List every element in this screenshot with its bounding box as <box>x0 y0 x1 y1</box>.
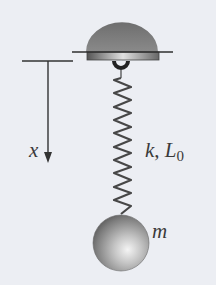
k-symbol: k <box>145 138 154 162</box>
arrowhead-icon <box>44 152 52 163</box>
dome-shape <box>86 22 158 52</box>
hook <box>114 61 128 78</box>
spring <box>114 78 131 214</box>
spring-parameters-label: k, L0 <box>145 140 184 164</box>
L-symbol: L <box>165 138 177 162</box>
ceiling-mount <box>72 22 173 60</box>
dome-base-plate <box>87 52 159 60</box>
separator: , <box>154 138 165 162</box>
displacement-label: x <box>29 140 38 161</box>
L-subscript: 0 <box>177 148 185 164</box>
mass-label: m <box>152 221 167 242</box>
mass-ball <box>93 215 149 271</box>
m-symbol: m <box>152 219 167 243</box>
x-symbol: x <box>29 138 38 162</box>
